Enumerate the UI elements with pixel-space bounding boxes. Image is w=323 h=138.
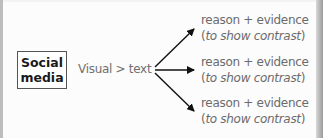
branch-3: reason + evidence (to show contrast) <box>201 95 309 127</box>
branch-1-reason: reason + evidence <box>201 12 309 28</box>
arrow-up-icon <box>155 29 194 67</box>
arrow-down-icon <box>155 73 194 111</box>
branch-3-reason: reason + evidence <box>201 95 309 111</box>
branch-2-reason: reason + evidence <box>201 54 309 70</box>
branch-1: reason + evidence (to show contrast) <box>201 12 309 44</box>
branch-2-note: (to show contrast) <box>201 70 309 86</box>
branch-2: reason + evidence (to show contrast) <box>201 54 309 86</box>
branch-3-note: (to show contrast) <box>201 111 309 127</box>
branch-1-note: (to show contrast) <box>201 28 309 44</box>
